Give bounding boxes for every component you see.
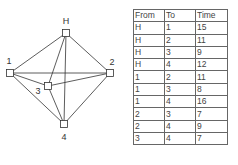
cell-from: H: [134, 59, 165, 71]
cell-from: H: [134, 34, 165, 46]
node-box: [7, 70, 14, 77]
cell-from: 2: [134, 120, 165, 132]
cell-time: 8: [196, 83, 228, 95]
edge-H-3: [48, 33, 66, 86]
cell-to: 2: [165, 71, 196, 83]
cell-from: 2: [134, 108, 165, 120]
node-2: 2: [107, 57, 115, 77]
edge-3-4: [48, 86, 64, 124]
graph-edges: [10, 33, 110, 124]
cell-time: 16: [196, 96, 228, 108]
cell-to: 4: [165, 96, 196, 108]
network-graph: H1234: [0, 0, 130, 165]
cell-time: 7: [196, 132, 228, 144]
header-from: From: [134, 10, 165, 22]
cell-time: 11: [196, 34, 228, 46]
node-1: 1: [6, 56, 13, 77]
node-box: [107, 70, 114, 77]
table-row: H115: [134, 22, 228, 34]
cell-from: 1: [134, 96, 165, 108]
cell-time: 9: [196, 46, 228, 58]
node-box: [45, 83, 52, 90]
node-label: 4: [61, 132, 66, 142]
table-row: 1416: [134, 96, 228, 108]
edge-H-1: [10, 33, 66, 73]
node-H: H: [63, 16, 70, 37]
cell-time: 15: [196, 22, 228, 34]
table-row: H39: [134, 46, 228, 58]
travel-time-table: From To Time H115 H211 H39 H412 1211 138…: [133, 9, 228, 145]
cell-from: 1: [134, 71, 165, 83]
cell-from: 3: [134, 132, 165, 144]
cell-to: 3: [165, 108, 196, 120]
cell-to: 4: [165, 59, 196, 71]
cell-time: 11: [196, 71, 228, 83]
node-label: 1: [6, 56, 11, 66]
node-label: 2: [109, 57, 114, 67]
cell-to: 3: [165, 46, 196, 58]
cell-from: H: [134, 46, 165, 58]
table-row: H412: [134, 59, 228, 71]
edge-1-4: [10, 73, 64, 124]
cell-from: H: [134, 22, 165, 34]
node-label: H: [63, 16, 70, 26]
cell-to: 1: [165, 22, 196, 34]
cell-to: 2: [165, 34, 196, 46]
edge-2-3: [48, 73, 110, 86]
cell-to: 4: [165, 120, 196, 132]
table-row: 347: [134, 132, 228, 144]
cell-from: 1: [134, 83, 165, 95]
table-row: 138: [134, 83, 228, 95]
node-4: 4: [61, 121, 68, 143]
edge-1-3: [10, 73, 48, 86]
table-row: 1211: [134, 71, 228, 83]
table-row: H211: [134, 34, 228, 46]
cell-to: 3: [165, 83, 196, 95]
graph-nodes: H1234: [6, 16, 114, 142]
edge-2-4: [64, 73, 110, 124]
node-box: [63, 30, 70, 37]
cell-time: 7: [196, 108, 228, 120]
header-to: To: [165, 10, 196, 22]
table-header-row: From To Time: [134, 10, 228, 22]
cell-time: 12: [196, 59, 228, 71]
table-row: 249: [134, 120, 228, 132]
edge-H-2: [66, 33, 110, 73]
node-label: 3: [35, 86, 40, 96]
cell-time: 9: [196, 120, 228, 132]
edge-H-4: [64, 33, 66, 124]
table-row: 237: [134, 108, 228, 120]
cell-to: 4: [165, 132, 196, 144]
header-time: Time: [196, 10, 228, 22]
node-box: [61, 121, 68, 128]
